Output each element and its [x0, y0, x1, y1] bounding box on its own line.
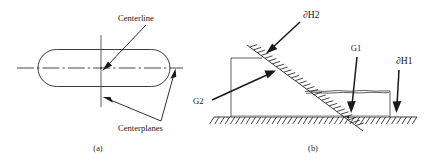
figure-container: Centerline Centerplanes (a) — [0, 0, 430, 162]
g1-label: G1 — [351, 43, 362, 53]
centerplanes-arrowhead-right — [170, 69, 176, 79]
figure-canvas: Centerline Centerplanes (a) — [0, 0, 430, 162]
g1-leader — [352, 57, 357, 105]
centerplanes-leader-right — [161, 74, 174, 121]
subfigure-b-caption: (b) — [308, 144, 318, 153]
centerplanes-label: Centerplanes — [118, 123, 164, 133]
subfigure-a: Centerline Centerplanes (a) — [17, 13, 183, 153]
diagonal-boundary-line — [247, 45, 363, 131]
dh2-label: ∂H2 — [303, 9, 320, 20]
centerplanes-arrowhead-left — [103, 97, 113, 103]
centerplanes-leader-left — [108, 99, 161, 121]
contact-point-marker — [347, 116, 349, 118]
dh1-label: ∂H1 — [396, 55, 413, 66]
centerline-label: Centerline — [118, 13, 154, 23]
g2-arrowhead — [264, 70, 276, 78]
centerline-leader — [106, 25, 146, 67]
ground-hatching — [210, 117, 417, 124]
center-point-marker — [100, 67, 102, 69]
diagonal-hatching — [250, 45, 364, 126]
g1-arrowhead — [347, 101, 356, 113]
dh2-leader — [271, 22, 300, 49]
subfigure-b: ∂H2 G1 G2 ∂H1 (b) — [193, 9, 417, 153]
g2-leader — [212, 74, 269, 100]
scan-speck — [148, 82, 149, 83]
right-block-outline — [305, 90, 390, 117]
left-block-outline — [231, 58, 262, 117]
centerline-arrowhead — [102, 62, 112, 71]
subfigure-a-caption: (a) — [93, 144, 103, 153]
dh1-arrowhead — [393, 101, 402, 113]
dh1-leader — [397, 70, 399, 105]
g2-label: G2 — [193, 96, 204, 106]
